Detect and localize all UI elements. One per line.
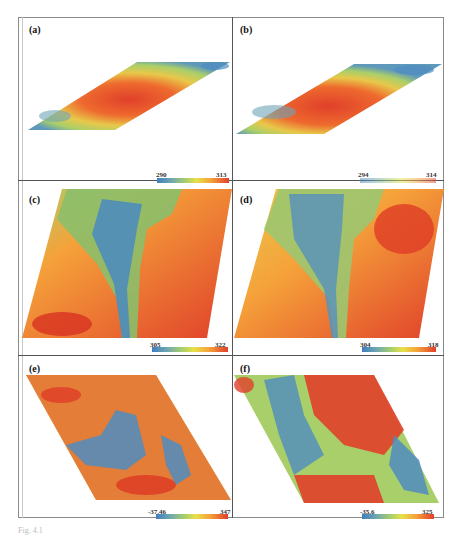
figure-caption: Fig. 4.1 [18, 526, 43, 535]
heatmap-e [26, 375, 231, 503]
colorbar-b [360, 178, 436, 183]
colorbar-e [156, 514, 228, 519]
heatmap-b [234, 60, 444, 136]
row-divider-2 [18, 355, 444, 356]
colorbar-c [152, 347, 228, 352]
heatmap-f [234, 375, 444, 505]
heatmap-c [22, 189, 232, 339]
panel-label: (e) [29, 363, 40, 374]
colorbar-f [362, 514, 434, 519]
heatmap-d [234, 189, 444, 339]
colorbar-d [362, 347, 436, 352]
panel-label: (b) [240, 24, 252, 35]
colorbar-a [157, 178, 229, 183]
panel-label: (a) [29, 24, 41, 35]
panel-label: (f) [240, 363, 250, 374]
heatmap-a [25, 58, 235, 133]
